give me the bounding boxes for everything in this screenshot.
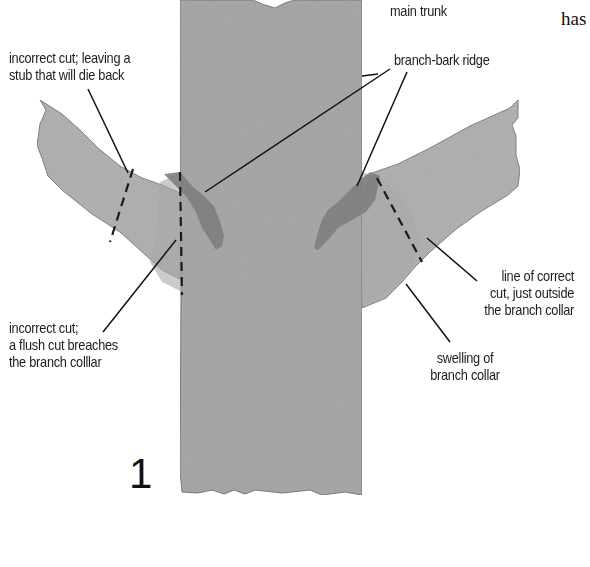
label-flush-cut-line-1: incorrect cut; [9, 320, 118, 337]
trunk [180, 0, 362, 495]
label-correct-cut-line-1: line of correct [484, 268, 574, 285]
label-swelling-line-2: branch collar [421, 367, 509, 384]
label-flush-cut-line-2: a flush cut breaches [9, 337, 118, 354]
pruning-diagram: main trunk branch-bark ridge incorrect c… [0, 0, 590, 567]
label-correct-cut-line-3: the branch collar [484, 302, 574, 319]
leader-main-trunk [362, 74, 378, 76]
label-flush-cut: incorrect cut; a flush cut breaches the … [9, 320, 118, 371]
label-main-trunk: main trunk [390, 3, 447, 20]
figure-number: 1 [129, 450, 152, 498]
label-swelling-line-1: swelling of [421, 350, 509, 367]
label-stub-cut-line-2: stub that will die back [9, 67, 130, 84]
label-flush-cut-line-3: the branch colllar [9, 354, 118, 371]
leader-correct-cut [427, 238, 477, 281]
label-branch-bark-ridge: branch-bark ridge [394, 52, 490, 69]
leader-swelling [406, 284, 450, 342]
label-correct-cut-line-2: cut, just outside [484, 285, 574, 302]
label-swelling: swelling of branch collar [421, 350, 509, 384]
cropped-body-text: has [561, 8, 586, 30]
label-stub-cut-line-1: incorrect cut; leaving a [9, 50, 130, 67]
label-correct-cut: line of correct cut, just outside the br… [484, 268, 574, 319]
leader-flush-cut [103, 240, 176, 332]
label-stub-cut: incorrect cut; leaving a stub that will … [9, 50, 130, 84]
